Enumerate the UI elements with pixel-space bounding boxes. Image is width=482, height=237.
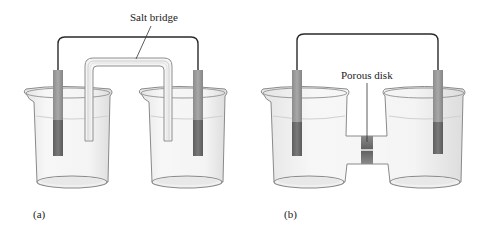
- right-beaker-a: [139, 87, 227, 189]
- wire-b: [297, 34, 438, 72]
- galvanic-cells-diagram: Salt bridge (a): [0, 0, 482, 237]
- right-electrode-b: [433, 70, 443, 154]
- left-beaker-a: [24, 87, 112, 189]
- panel-a: Salt bridge (a): [24, 11, 227, 221]
- left-electrode-a: [53, 70, 63, 156]
- panel-b: Porous disk (b): [261, 34, 465, 221]
- porous-disk-label: Porous disk: [341, 69, 393, 81]
- panel-b-caption: (b): [284, 208, 297, 221]
- left-electrode-b: [292, 70, 302, 156]
- right-electrode-a: [193, 70, 203, 156]
- wire-a: [58, 37, 198, 72]
- salt-bridge-label: Salt bridge: [130, 11, 178, 23]
- salt-bridge-leader-line: [136, 26, 151, 59]
- panel-a-caption: (a): [33, 208, 46, 221]
